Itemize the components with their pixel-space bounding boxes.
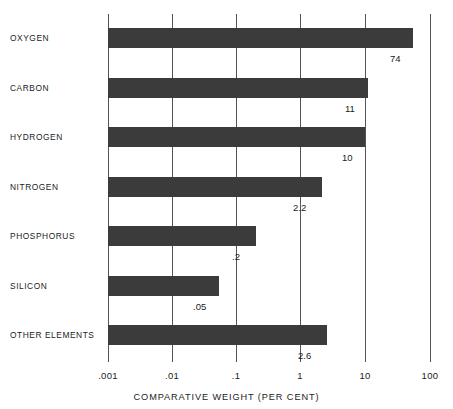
- bar-phosphorus: [108, 226, 256, 246]
- category-label-other-elements: OTHER ELEMENTS: [10, 331, 104, 339]
- x-tick-label-.1: .1: [216, 371, 256, 381]
- value-label-phosphorus: .2: [232, 252, 240, 262]
- gridline-100: [430, 14, 431, 362]
- x-tick-label-10: 10: [345, 371, 385, 381]
- value-label-nitrogen: 2.2: [293, 203, 306, 213]
- category-label-hydrogen: HYDROGEN: [10, 133, 104, 141]
- value-label-silicon: .05: [193, 302, 206, 312]
- value-label-other-elements: 2.6: [298, 351, 311, 361]
- value-label-oxygen: 74: [390, 54, 401, 64]
- bar-nitrogen: [108, 177, 322, 197]
- category-label-carbon: CARBON: [10, 84, 104, 92]
- x-tick-label-100: 100: [410, 371, 450, 381]
- category-label-oxygen: OXYGEN: [10, 34, 104, 42]
- category-label-phosphorus: PHOSPHORUS: [10, 232, 104, 240]
- plot-area: OXYGEN 74 CARBON 11 HYDROGEN 10 NITROGEN…: [0, 0, 453, 409]
- bar-chart: OXYGEN 74 CARBON 11 HYDROGEN 10 NITROGEN…: [0, 0, 453, 409]
- value-label-carbon: 11: [345, 104, 355, 114]
- bar-oxygen: [108, 28, 413, 48]
- x-axis-title: COMPARATIVE WEIGHT (PER CENT): [0, 392, 453, 402]
- category-label-nitrogen: NITROGEN: [10, 183, 104, 191]
- bar-silicon: [108, 276, 219, 296]
- x-tick-label-.01: .01: [152, 371, 192, 381]
- gridline-10: [365, 14, 366, 362]
- bar-carbon: [108, 78, 368, 98]
- bar-hydrogen: [108, 127, 365, 147]
- x-tick-label-.001: .001: [88, 371, 128, 381]
- value-label-hydrogen: 10: [342, 153, 353, 163]
- category-label-silicon: SILICON: [10, 282, 104, 290]
- x-tick-label-1: 1: [280, 371, 320, 381]
- bar-other-elements: [108, 325, 327, 345]
